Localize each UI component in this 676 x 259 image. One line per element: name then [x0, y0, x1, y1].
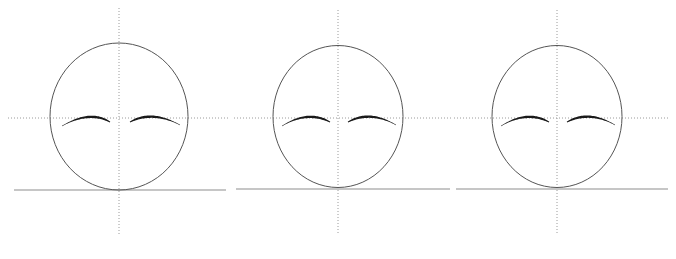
three-face-diagrams [0, 0, 676, 259]
left-eye-arc [501, 116, 549, 127]
right-eye-arc [567, 115, 615, 125]
panel-1 [8, 8, 228, 236]
left-eye-arc [282, 116, 330, 127]
panel-2 [234, 10, 452, 234]
figure-canvas [0, 0, 676, 259]
right-eye-arc [130, 115, 180, 125]
panel-3 [454, 10, 670, 234]
left-eye-arc [62, 116, 110, 127]
right-eye-arc [348, 115, 396, 125]
